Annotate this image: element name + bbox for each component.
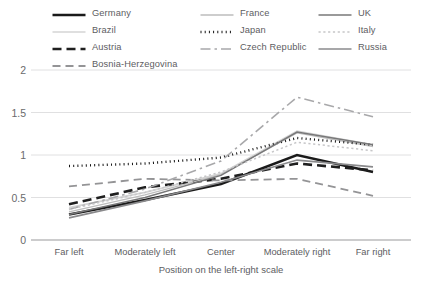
legend-swatch-icon — [318, 41, 352, 53]
legend-label: Bosnia-Herzegovina — [92, 59, 178, 70]
legend-item-germany[interactable]: Germany — [52, 6, 131, 20]
legend-item-japan[interactable]: Japan — [200, 23, 266, 37]
legend-label: Austria — [92, 42, 122, 53]
legend-label: Czech Republic — [240, 42, 307, 53]
legend-swatch-icon — [200, 7, 234, 19]
legend-swatch-icon — [318, 24, 352, 36]
y-axis-tick-label: 2 — [20, 64, 26, 76]
plot-area: 00.511.52Far leftModerately leftCenterMo… — [31, 70, 411, 240]
plot-svg — [31, 70, 411, 240]
y-axis-tick-label: 1 — [20, 149, 26, 161]
x-axis-tick-label: Moderately right — [264, 247, 331, 257]
legend-item-brazil[interactable]: Brazil — [52, 23, 116, 37]
x-axis-tick-label: Far right — [356, 247, 391, 257]
legend-label: Germany — [92, 8, 131, 19]
legend-swatch-icon — [52, 7, 86, 19]
line-chart: GermanyBrazilAustriaBosnia-HerzegovinaFr… — [0, 0, 421, 286]
y-axis-tick-label: 0.5 — [11, 192, 26, 204]
gridlines — [31, 70, 411, 240]
legend-swatch-icon — [200, 41, 234, 53]
series-line-czech-republic — [69, 97, 373, 209]
legend-label: Japan — [240, 25, 266, 36]
legend-item-czech-republic[interactable]: Czech Republic — [200, 40, 307, 54]
x-axis-tick-label: Moderately left — [115, 247, 176, 257]
legend-item-uk[interactable]: UK — [318, 6, 371, 20]
y-axis-tick-label: 0 — [20, 234, 26, 246]
legend-swatch-icon — [52, 58, 86, 70]
series-line-germany — [69, 155, 373, 215]
legend-swatch-icon — [52, 24, 86, 36]
x-axis-tick-label: Center — [207, 247, 235, 257]
x-axis-title: Position on the left-right scale — [31, 264, 411, 275]
series-line-brazil — [69, 131, 373, 208]
legend-item-france[interactable]: France — [200, 6, 270, 20]
legend-label: France — [240, 8, 270, 19]
legend-item-austria[interactable]: Austria — [52, 40, 122, 54]
legend-swatch-icon — [200, 24, 234, 36]
legend-label: UK — [358, 8, 371, 19]
legend-swatch-icon — [52, 41, 86, 53]
legend-swatch-icon — [318, 7, 352, 19]
chart-legend: GermanyBrazilAustriaBosnia-HerzegovinaFr… — [52, 6, 414, 68]
y-axis-tick-label: 1.5 — [11, 107, 26, 119]
x-axis-tick-label: Far left — [55, 247, 84, 257]
legend-item-italy[interactable]: Italy — [318, 23, 376, 37]
series-line-russia — [69, 160, 373, 218]
legend-item-bosnia-herzegovina[interactable]: Bosnia-Herzegovina — [52, 57, 178, 71]
legend-label: Italy — [358, 25, 376, 36]
legend-label: Russia — [358, 42, 387, 53]
legend-item-russia[interactable]: Russia — [318, 40, 387, 54]
legend-label: Brazil — [92, 25, 116, 36]
series-line-france — [69, 133, 373, 212]
series-lines — [69, 97, 373, 218]
